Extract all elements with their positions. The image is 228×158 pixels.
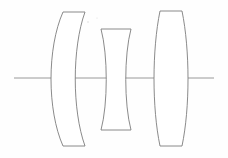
lens-element-2-biconcave <box>101 29 131 130</box>
lens-element-3-biconvex <box>154 11 188 146</box>
artifact-speck-1 <box>87 21 89 23</box>
lens-diagram-canvas <box>0 0 228 158</box>
lens-element-1-meniscus <box>51 12 85 146</box>
optical-lens-diagram <box>0 0 228 158</box>
artifact-speck-2 <box>96 17 97 18</box>
